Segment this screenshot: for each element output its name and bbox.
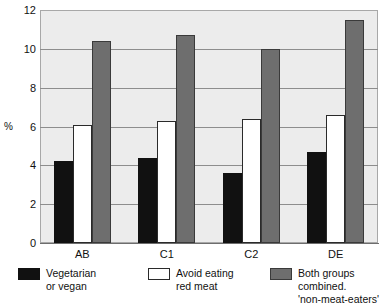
bars-layer — [40, 10, 378, 243]
bar — [176, 35, 195, 243]
bar — [261, 49, 280, 243]
x-axis-line — [40, 243, 379, 244]
legend-label: Avoid eating red meat — [176, 267, 234, 293]
bar — [138, 158, 157, 243]
black-swatch — [18, 268, 40, 280]
x-axis-tick-label: DE — [294, 248, 379, 260]
bar-group — [223, 10, 280, 243]
legend-item: Vegetarian or vegan — [18, 267, 96, 293]
bar-group — [307, 10, 364, 243]
y-axis-tick-label: 8 — [2, 83, 36, 94]
chart-legend: Vegetarian or veganAvoid eating red meat… — [18, 267, 391, 297]
legend-label: Vegetarian or vegan — [46, 267, 96, 293]
plot-area-wrapper — [40, 10, 378, 243]
bar — [307, 152, 326, 243]
legend-item: Avoid eating red meat — [148, 267, 234, 293]
bar-group — [54, 10, 111, 243]
x-axis-tick-label: C1 — [125, 248, 210, 260]
bar — [345, 20, 364, 243]
y-axis-tick-label: 6 — [2, 122, 36, 133]
bar — [73, 125, 92, 243]
white-swatch — [148, 268, 170, 280]
bar-group — [138, 10, 195, 243]
bar — [92, 41, 111, 243]
bar — [223, 173, 242, 243]
y-axis-tick-label: 12 — [2, 5, 36, 16]
bar — [54, 161, 73, 243]
bar — [326, 115, 345, 243]
x-axis-tick-label: AB — [40, 248, 125, 260]
legend-label: Both groups combined. 'non-meat-eaters' — [298, 267, 391, 306]
y-axis-tick-label: 0 — [2, 238, 36, 249]
bar — [157, 121, 176, 243]
bar — [242, 119, 261, 243]
y-axis-tick-label: 4 — [2, 160, 36, 171]
y-axis-tick-label: 2 — [2, 199, 36, 210]
legend-item: Both groups combined. 'non-meat-eaters' — [270, 267, 391, 306]
x-axis-tick-label: C2 — [209, 248, 294, 260]
grey-swatch — [270, 268, 292, 280]
y-axis-tick-label: 10 — [2, 44, 36, 55]
